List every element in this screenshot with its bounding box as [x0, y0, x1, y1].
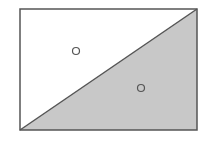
point-in-shaded-region [138, 85, 145, 92]
diagram-canvas [0, 0, 212, 141]
point-in-white-region [73, 48, 80, 55]
